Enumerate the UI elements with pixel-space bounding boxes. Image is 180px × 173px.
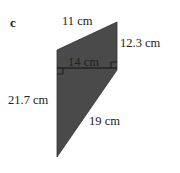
top-side-label: 11 cm <box>62 14 93 28</box>
height-label: 14 cm <box>68 55 99 69</box>
part-label: c <box>10 15 16 30</box>
left-side-label: 21.7 cm <box>8 93 49 107</box>
slant-side-label: 19 cm <box>89 114 120 128</box>
trapezium-diagram: c 11 cm 12.3 cm 14 cm 21.7 cm 19 cm <box>0 0 180 173</box>
trapezium-shape <box>57 22 117 157</box>
right-side-label: 12.3 cm <box>120 36 161 50</box>
